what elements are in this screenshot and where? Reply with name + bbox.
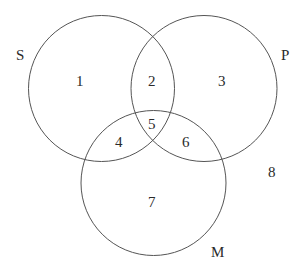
venn-diagram: S P M 1 2 3 4 5 6 7 8 — [0, 0, 305, 270]
set-label-s: S — [16, 47, 24, 63]
circle-m — [81, 111, 226, 256]
region-3: 3 — [218, 73, 226, 89]
region-5: 5 — [148, 116, 156, 132]
region-2: 2 — [148, 73, 156, 89]
region-8: 8 — [268, 164, 276, 180]
set-label-m: M — [211, 244, 224, 260]
region-6: 6 — [182, 134, 190, 150]
region-4: 4 — [115, 134, 123, 150]
region-7: 7 — [148, 194, 156, 210]
set-label-p: P — [281, 47, 289, 63]
region-1: 1 — [76, 73, 84, 89]
